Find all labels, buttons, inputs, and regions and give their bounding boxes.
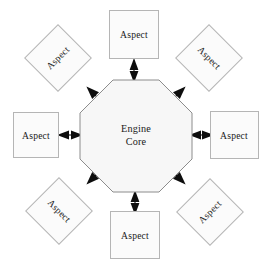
aspect-node-top-right[interactable]: Aspect xyxy=(176,25,242,91)
aspect-node-top[interactable]: Aspect xyxy=(110,11,159,59)
engine-core-node[interactable]: Engine Core xyxy=(80,80,192,192)
connector-left[interactable] xyxy=(57,131,83,140)
aspect-top-label: Aspect xyxy=(120,29,148,40)
aspect-left-label: Aspect xyxy=(22,130,50,141)
aspect-node-right[interactable]: Aspect xyxy=(211,112,259,159)
aspect-node-top-left[interactable]: Aspect xyxy=(25,25,91,91)
diagram-canvas: Engine Core Aspect Aspect Aspect Aspect … xyxy=(0,0,273,271)
aspect-node-bottom-right[interactable]: Aspect xyxy=(177,179,243,245)
engine-core-label-line2: Core xyxy=(126,136,147,147)
engine-core-label-line1: Engine xyxy=(121,123,151,134)
aspect-right-label: Aspect xyxy=(220,130,248,141)
connector-top-arrowhead-up xyxy=(130,58,139,70)
aspect-node-bottom[interactable]: Aspect xyxy=(111,212,160,259)
connector-top[interactable] xyxy=(130,58,139,83)
aspect-node-left[interactable]: Aspect xyxy=(14,113,59,158)
aspect-bottom-label: Aspect xyxy=(121,230,149,241)
engine-core-aspects-diagram: Engine Core Aspect Aspect Aspect Aspect … xyxy=(0,0,273,271)
aspect-node-bottom-left[interactable]: Aspect xyxy=(26,178,92,244)
